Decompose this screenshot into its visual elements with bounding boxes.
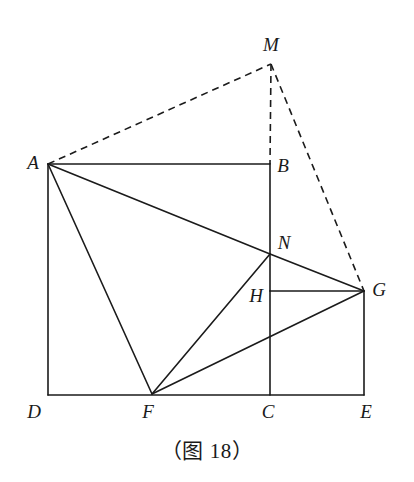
figure-caption: （图 18） xyxy=(0,434,414,464)
vertex-label-G: G xyxy=(372,280,386,299)
vertex-label-C: C xyxy=(262,402,275,421)
vertex-label-H: H xyxy=(249,286,263,305)
vertex-label-D: D xyxy=(27,402,41,421)
segment-AF xyxy=(48,164,152,394)
vertex-label-M: M xyxy=(263,35,279,54)
segment-MB xyxy=(270,64,271,164)
segment-FG xyxy=(152,291,364,394)
vertex-label-A: A xyxy=(27,153,39,172)
segment-AN xyxy=(48,164,270,254)
segment-NG xyxy=(270,254,364,291)
vertex-label-N: N xyxy=(278,233,291,252)
vertex-label-F: F xyxy=(142,402,154,421)
vertex-label-E: E xyxy=(360,402,372,421)
dashed-lines-group xyxy=(48,64,364,291)
figure-canvas xyxy=(0,0,414,482)
geometry-figure: A B C D E F G H M N （图 18） xyxy=(0,0,414,482)
segment-MG xyxy=(271,64,364,291)
vertex-label-B: B xyxy=(277,156,289,175)
solid-lines-group xyxy=(48,164,364,395)
segment-FN xyxy=(152,254,270,394)
segment-AM xyxy=(48,64,271,164)
